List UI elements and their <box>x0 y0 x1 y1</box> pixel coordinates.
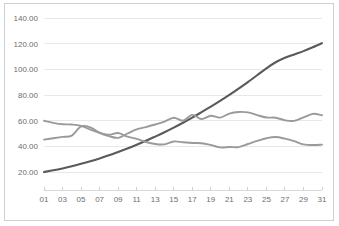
x-tick-label: 09 <box>114 195 123 204</box>
x-tick-label: 29 <box>299 195 308 204</box>
x-tick-label: 03 <box>58 195 67 204</box>
axis-lines <box>44 187 322 190</box>
x-tick-label: 31 <box>318 195 327 204</box>
chart-container: 20.0040.0060.0080.00100.00120.00140.00 0… <box>0 0 339 226</box>
data-series <box>44 43 322 172</box>
x-tick-label: 19 <box>206 195 215 204</box>
x-tick-label: 11 <box>133 195 142 204</box>
y-tick-label: 60.00 <box>18 117 39 126</box>
x-axis-tick-labels: 01030507091113151719212325272931 <box>40 195 327 204</box>
gridlines <box>44 18 322 172</box>
x-tick-label: 25 <box>262 195 271 204</box>
x-tick-label: 15 <box>169 195 178 204</box>
y-tick-label: 100.00 <box>14 65 39 74</box>
series-line-1 <box>44 43 322 172</box>
x-tick-label: 27 <box>280 195 289 204</box>
line-chart: 20.0040.0060.0080.00100.00120.00140.00 0… <box>0 0 339 226</box>
y-tick-label: 20.00 <box>18 168 39 177</box>
y-tick-label: 40.00 <box>18 142 39 151</box>
x-tick-label: 17 <box>188 195 197 204</box>
x-tick-label: 01 <box>40 195 49 204</box>
y-axis-tick-labels: 20.0040.0060.0080.00100.00120.00140.00 <box>14 14 39 177</box>
series-line-3 <box>44 112 322 140</box>
x-tick-label: 13 <box>151 195 160 204</box>
x-tick-label: 07 <box>95 195 104 204</box>
y-tick-label: 120.00 <box>14 40 39 49</box>
x-tick-label: 05 <box>77 195 86 204</box>
x-tick-label: 23 <box>243 195 252 204</box>
y-tick-label: 80.00 <box>18 91 39 100</box>
x-tick-label: 21 <box>225 195 234 204</box>
series-line-2 <box>44 121 322 148</box>
y-tick-label: 140.00 <box>14 14 39 23</box>
